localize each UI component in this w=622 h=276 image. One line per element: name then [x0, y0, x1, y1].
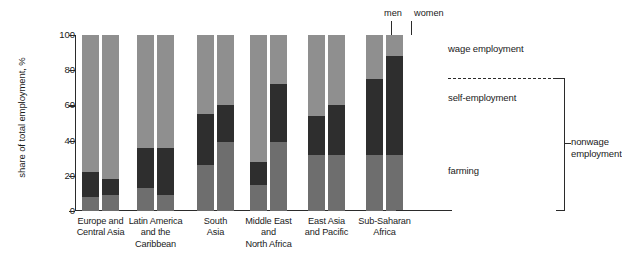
- bar-segment-farming: [217, 142, 234, 211]
- bar-group-europe-central-asia: [82, 35, 119, 211]
- callout-label-men: men: [384, 8, 402, 18]
- bar-segment-farming: [386, 155, 403, 211]
- bar-segment-wage-employment: [308, 35, 325, 116]
- bar-sub-saharan-africa-men[interactable]: [366, 35, 383, 211]
- bar-south-asia-men[interactable]: [197, 35, 214, 211]
- legend-label-nonwage-employment: nonwage employment: [571, 136, 622, 159]
- bar-segment-farming: [328, 155, 345, 211]
- bar-segment-farming: [137, 188, 154, 211]
- bar-group-south-asia: [197, 35, 234, 211]
- legend-label-wage-employment: wage employment: [448, 43, 524, 54]
- bar-group-latin-america-caribbean: [137, 35, 174, 211]
- bar-group-middle-east-north-africa: [250, 35, 287, 211]
- nonwage-line-2: employment: [571, 148, 622, 160]
- category-label-line: Caribbean: [111, 239, 201, 250]
- bar-segment-wage-employment: [197, 35, 214, 114]
- category-label-line: North Africa: [224, 239, 314, 250]
- bar-segment-farming: [157, 195, 174, 211]
- bar-segment-wage-employment: [270, 35, 287, 84]
- bar-segment-self-employment: [217, 105, 234, 142]
- bar-segment-farming: [82, 197, 99, 211]
- bar-group-sub-saharan-africa: [366, 35, 403, 211]
- bar-east-asia-pacific-women[interactable]: [328, 35, 345, 211]
- bar-east-asia-pacific-men[interactable]: [308, 35, 325, 211]
- bar-segment-self-employment: [137, 148, 154, 188]
- bar-europe-central-asia-women[interactable]: [102, 35, 119, 211]
- bar-segment-self-employment: [102, 179, 119, 195]
- callout-label-women: women: [414, 8, 444, 18]
- bar-segment-self-employment: [328, 105, 345, 154]
- bar-segment-farming: [308, 155, 325, 211]
- legend-divider-dashed: [448, 78, 556, 79]
- callout-leader-men: [391, 21, 392, 35]
- category-label-line: Africa: [340, 227, 430, 238]
- bar-south-asia-women[interactable]: [217, 35, 234, 211]
- bar-segment-self-employment: [366, 79, 383, 155]
- bar-europe-central-asia-men[interactable]: [82, 35, 99, 211]
- legend-label-self-employment: self-employment: [448, 92, 516, 103]
- bar-segment-wage-employment: [137, 35, 154, 148]
- bar-segment-farming: [366, 155, 383, 211]
- bar-middle-east-north-africa-women[interactable]: [270, 35, 287, 211]
- bar-segment-farming: [197, 165, 214, 211]
- plot-area: [75, 35, 448, 211]
- bar-segment-self-employment: [250, 162, 267, 185]
- bar-segment-wage-employment: [250, 35, 267, 162]
- bar-latin-america-caribbean-women[interactable]: [157, 35, 174, 211]
- category-label-sub-saharan-africa: Sub-SaharanAfrica: [340, 216, 430, 239]
- bar-latin-america-caribbean-men[interactable]: [137, 35, 154, 211]
- bar-segment-farming: [250, 185, 267, 211]
- bar-segment-self-employment: [82, 172, 99, 197]
- nonwage-line-1: nonwage: [571, 136, 622, 148]
- category-label-line: Sub-Saharan: [340, 216, 430, 227]
- bar-sub-saharan-africa-women[interactable]: [386, 35, 403, 211]
- bar-segment-farming: [102, 195, 119, 211]
- bar-group-east-asia-pacific: [308, 35, 345, 211]
- legend-divider-solid: [396, 210, 452, 211]
- bar-segment-self-employment: [270, 84, 287, 142]
- bar-segment-farming: [270, 142, 287, 211]
- y-axis-title: share of total employment, %: [16, 28, 27, 208]
- callout-leader-women: [411, 21, 412, 35]
- bar-segment-wage-employment: [328, 35, 345, 105]
- bar-segment-wage-employment: [386, 35, 403, 56]
- bar-segment-self-employment: [157, 148, 174, 196]
- bar-segment-wage-employment: [82, 35, 99, 172]
- bar-middle-east-north-africa-men[interactable]: [250, 35, 267, 211]
- bar-segment-self-employment: [386, 56, 403, 155]
- bar-segment-wage-employment: [366, 35, 383, 79]
- legend-label-farming: farming: [448, 165, 479, 176]
- bar-segment-self-employment: [308, 116, 325, 155]
- bar-segment-wage-employment: [217, 35, 234, 105]
- bar-segment-self-employment: [197, 114, 214, 165]
- bar-segment-wage-employment: [102, 35, 119, 179]
- bar-segment-wage-employment: [157, 35, 174, 148]
- nonwage-bracket: [556, 78, 565, 211]
